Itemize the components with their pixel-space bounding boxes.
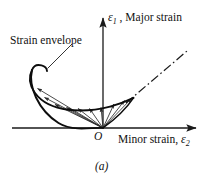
strain-path-ray [103, 99, 132, 129]
strain-envelope-curve [30, 65, 134, 128]
radial-strain-path-rays [38, 89, 132, 129]
strain-envelope-figure: ε1 , Major strain Minor strain, ε2 Strai… [0, 0, 211, 183]
x-axis-label: Minor strain, ε2 [118, 133, 190, 149]
plane-strain-reference-line [126, 51, 187, 103]
y-axis-name: Major strain [125, 11, 182, 23]
strain-envelope-annotation-label: Strain envelope [10, 34, 82, 46]
origin-label: O [94, 130, 102, 142]
figure-canvas [0, 0, 211, 183]
figure-caption: (a) [95, 160, 108, 172]
epsilon-2-subscript: 2 [186, 139, 190, 148]
x-axis-name: Minor strain, [118, 133, 181, 145]
envelope-leader-line [48, 44, 73, 69]
envelope-upper-branch [30, 70, 134, 110]
y-axis-label: ε1 , Major strain [108, 11, 182, 27]
envelope-left-tip [32, 65, 47, 71]
